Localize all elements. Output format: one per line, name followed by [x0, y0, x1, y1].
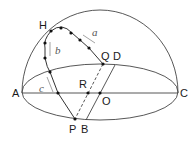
arc-label-c: c	[39, 82, 44, 94]
dot	[43, 41, 46, 44]
dot	[69, 31, 72, 34]
arc-label-b: b	[55, 44, 61, 56]
label-Q: Q	[101, 50, 110, 62]
arc-label-a: a	[92, 26, 98, 38]
dot-R	[86, 91, 89, 94]
diagram-canvas: A C H Q D R O P B a b c	[0, 0, 196, 142]
label-C: C	[180, 87, 188, 99]
label-H: H	[39, 19, 47, 31]
label-B: B	[81, 123, 88, 135]
dot-H	[49, 29, 52, 32]
dot-Q	[101, 62, 104, 65]
vertex-dots	[43, 26, 104, 120]
dot	[43, 56, 46, 59]
dot-P	[73, 117, 76, 120]
label-P: P	[69, 123, 76, 135]
dot	[87, 46, 90, 49]
hemisphere-diagram: A C H Q D R O P B a b c	[0, 0, 196, 142]
dot	[56, 91, 59, 94]
label-O: O	[102, 95, 111, 107]
dashed-line-QP	[75, 64, 103, 119]
arrow-c	[47, 77, 53, 92]
dot	[48, 70, 51, 73]
dot	[59, 26, 62, 29]
dot	[78, 38, 81, 41]
label-D: D	[113, 50, 121, 62]
label-R: R	[79, 78, 87, 90]
label-A: A	[12, 87, 20, 99]
